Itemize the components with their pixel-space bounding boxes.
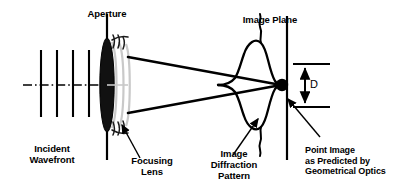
point-image-dot [276, 79, 288, 91]
label-image-diffraction-pattern: Image Diffraction Pattern [196, 148, 272, 182]
label-aperture: Aperture [72, 8, 142, 19]
label-focusing-lens: Focusing Lens [116, 155, 188, 177]
leader-focusing-lens [122, 125, 140, 158]
converging-ray-cone [128, 57, 281, 113]
label-incident-wavefront: Incident Wavefront [8, 143, 96, 165]
label-image-plane: Image Plane [228, 14, 312, 25]
ray-upper [128, 57, 281, 85]
label-dimension-d: D [310, 78, 318, 90]
leader-point-image [288, 99, 320, 137]
label-point-image: Point Image as Predicted by Geometrical … [305, 145, 413, 177]
ray-lower [128, 85, 281, 113]
optics-diagram: Aperture Image Plane Incident Wavefront … [0, 0, 413, 192]
incident-wavefront-lines [41, 50, 89, 117]
